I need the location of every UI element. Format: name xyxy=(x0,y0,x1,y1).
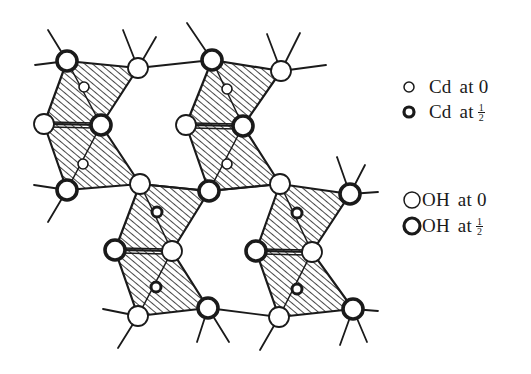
octahedron xyxy=(186,60,281,126)
legend-cd-zero-icon xyxy=(404,82,414,92)
legend-item-cd-zero: Cd at 0 xyxy=(429,76,488,98)
oh-atom-zero xyxy=(270,174,290,194)
legend-species: OH xyxy=(422,189,450,211)
oh-atom-zero xyxy=(162,241,182,261)
cd-atom-zero xyxy=(222,159,232,169)
legend-height: 0 xyxy=(479,76,489,98)
legend-species: Cd xyxy=(429,101,452,123)
oh-atom-zero xyxy=(34,114,54,134)
oh-atom-zero xyxy=(128,58,148,78)
oh-atom-half xyxy=(340,184,360,204)
legend-word: at xyxy=(460,101,474,123)
cd-atom-zero xyxy=(222,84,232,94)
oh-atom-half xyxy=(57,180,77,200)
legend-height: 0 xyxy=(477,189,487,211)
oh-atom-zero xyxy=(128,306,148,326)
octahedron xyxy=(44,124,140,190)
legend-item-oh-half: OH at 1 2 xyxy=(422,215,483,237)
oh-atom-half xyxy=(198,298,218,318)
oh-atom-half xyxy=(246,241,266,261)
oh-atom-half xyxy=(343,299,363,319)
cd-atom-half xyxy=(151,282,161,292)
cd-atom-zero xyxy=(78,159,88,169)
oh-atom-half xyxy=(199,181,219,201)
legend-item-oh-zero: OH at 0 xyxy=(422,189,487,211)
oh-atom-half xyxy=(202,50,222,70)
legend-oh-half-icon xyxy=(404,218,420,234)
cd-atom-half xyxy=(292,284,302,294)
legend-word: at xyxy=(458,189,472,211)
oh-atom-zero xyxy=(176,115,196,135)
octahedron xyxy=(44,61,138,125)
cd-atom-half xyxy=(292,208,302,218)
oh-atom-half xyxy=(91,115,111,135)
octahedron xyxy=(256,251,353,317)
octahedron xyxy=(256,184,350,252)
oh-atom-zero xyxy=(130,174,150,194)
legend-height-fraction: 1 2 xyxy=(478,103,485,122)
oh-atom-zero xyxy=(302,242,322,262)
oh-atom-zero xyxy=(271,61,291,81)
oh-atom-half xyxy=(105,240,125,260)
cd-atom-zero xyxy=(79,82,89,92)
oh-atom-half xyxy=(233,116,253,136)
legend-item-cd-half: Cd at 1 2 xyxy=(429,101,485,123)
octahedron xyxy=(115,184,209,251)
octahedron xyxy=(186,125,280,191)
legend-height-fraction: 1 2 xyxy=(476,217,483,236)
cdoh2-structure-diagram xyxy=(0,0,531,374)
legend-word: at xyxy=(460,76,474,98)
legend-word: at xyxy=(458,215,472,237)
legend-cd-half-icon xyxy=(404,107,414,117)
cd-atom-half xyxy=(152,207,162,217)
legend-species: OH xyxy=(422,215,450,237)
legend-symbols xyxy=(404,82,420,234)
oh-atom-half xyxy=(57,51,77,71)
legend-oh-zero-icon xyxy=(404,192,420,208)
oh-atom-zero xyxy=(269,307,289,327)
octahedron xyxy=(115,250,208,316)
legend-species: Cd xyxy=(429,76,452,98)
